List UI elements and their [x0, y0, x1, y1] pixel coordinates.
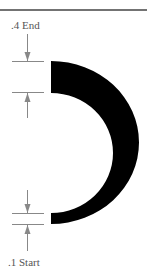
end-arrowhead-down-icon — [25, 52, 31, 61]
start-arrowhead-up-icon — [25, 225, 31, 234]
end-arrowhead-up-icon — [25, 93, 31, 102]
start-dimension — [12, 190, 44, 251]
tapered-arc-shape — [51, 61, 139, 224]
diagram-svg — [0, 0, 147, 277]
diagram-canvas: .4 End .1 Start — [0, 0, 147, 277]
end-label: .4 End — [11, 20, 40, 31]
end-dimension — [12, 34, 44, 118]
start-arrowhead-down-icon — [25, 204, 31, 213]
start-label: .1 Start — [8, 257, 40, 268]
